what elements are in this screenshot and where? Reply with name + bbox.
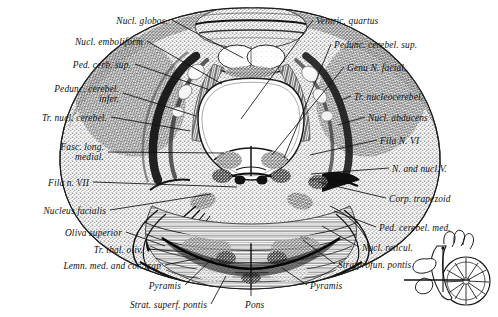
label-text: Nucl. globos. (116, 16, 168, 26)
label-text: Pedunc. cerebel. sup. (334, 40, 417, 50)
label-text: Pyramis (149, 281, 181, 291)
label-fila-n-vii: Fila n. VII (48, 178, 89, 188)
label-text: Corp. trapezoid (389, 194, 451, 204)
label-text: Nucleus facialis (43, 206, 106, 216)
nodulus-right (247, 45, 285, 69)
label-text: Genu N. facial. (347, 63, 407, 73)
label-text: Nucl. abducens (368, 113, 428, 123)
label-nucl-globos: Nucl. globos. (116, 16, 168, 26)
label-stratprofun-pontis: Stratprofun. pontis (338, 260, 411, 270)
left-facial-colliculus (216, 151, 242, 169)
label-text: Fasc. long. (60, 142, 104, 152)
label-lemn-med-cor-trap: Lemn. med. and cor. trap (63, 261, 161, 271)
right-facial-colliculus (261, 151, 287, 169)
label-text: Pyramis (310, 281, 342, 291)
label-text: Nucl. reticul. (362, 243, 413, 253)
label-nucl-reticul: Nucl. reticul. (362, 243, 413, 253)
label-strat-superf-pontis: Strat. superf. pontis (130, 300, 207, 310)
label-corp-trapezoid: Corp. trapezoid (389, 194, 451, 204)
label-pedunc-cerebel-inf: Pedunc. cerebel.infer. (54, 84, 119, 104)
label-nucl-abducens: Nucl. abducens (368, 113, 428, 123)
label-nucl-emboliform: Nucl. emboliform (75, 37, 143, 47)
label-text: Tr. thal. oliv. (94, 245, 143, 255)
label-text: Pons (245, 300, 264, 310)
right-abducens-nucleus (271, 169, 291, 183)
left-abducens-nucleus (212, 169, 232, 183)
label-ped-cerebel-med: Ped. cerebel. med. (379, 223, 451, 233)
label-text: Ped. cerb. sup. (73, 60, 131, 70)
label-pyramis-right: Pyramis (310, 281, 342, 291)
label-pedunc-cerebel-sup: Pedunc. cerebel. sup. (334, 40, 417, 50)
label-fila-n-vi: Fila N. VI (380, 136, 419, 146)
label-n-and-nucl-v: N. and nucl.V. (392, 164, 447, 174)
label-text: Stratprofun. pontis (338, 260, 411, 270)
label-ped-cerb-sup: Ped. cerb. sup. (73, 60, 131, 70)
label-text: Ventric. quartus (316, 16, 378, 26)
label-text: Oliva superior (65, 228, 122, 238)
label-genu-n-facial: Genu N. facial. (347, 63, 407, 73)
label-pons: Pons (245, 300, 264, 310)
label-tr-nucleocerebel: Tr. nucleocerebel. (354, 92, 423, 102)
left-mlf (235, 176, 246, 185)
right-nucleus-bead-3 (321, 111, 333, 121)
label-text: Nucl. emboliform (75, 37, 143, 47)
label-text: N. and nucl.V. (392, 164, 447, 174)
vermis-block (195, 5, 307, 49)
label-fasc-long-medial: Fasc. long.medial. (60, 142, 104, 162)
label-ventric-quartus: Ventric. quartus (316, 16, 378, 26)
in-figure-micro-note: N.r.p. (299, 235, 310, 240)
label-oliva-superior: Oliva superior (65, 228, 122, 238)
label-tr-nucl-cerebel: Tr. nucl. cerebel. (42, 113, 107, 123)
label-pyramis-left: Pyramis (149, 281, 181, 291)
label-text-line2: infer. (54, 94, 119, 104)
label-text: Fila n. VII (48, 178, 89, 188)
roof-stipple (225, 66, 277, 78)
label-tr-thal-oliv: Tr. thal. oliv. (94, 245, 143, 255)
label-text: Ped. cerebel. med. (379, 223, 451, 233)
inset-cerebellum-hilum (463, 278, 469, 284)
right-mlf (257, 176, 268, 185)
label-text: Tr. nucleocerebel. (354, 92, 423, 102)
label-text: Strat. superf. pontis (130, 300, 207, 310)
label-nucleus-facialis: Nucleus facialis (43, 206, 106, 216)
label-text: Pedunc. cerebel. (54, 84, 119, 94)
label-text: Lemn. med. and cor. trap (63, 261, 161, 271)
label-text-line2: medial. (60, 152, 104, 162)
label-text: Fila N. VI (380, 136, 419, 146)
label-text: Tr. nucl. cerebel. (42, 113, 107, 123)
